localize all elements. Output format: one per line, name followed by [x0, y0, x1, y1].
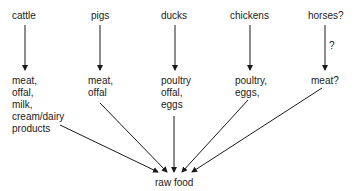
arrow-horses-rawfood — [192, 88, 322, 172]
arrow-pigs-rawfood — [100, 103, 167, 172]
products-chickens: poultry, eggs, — [235, 75, 267, 99]
source-cattle: cattle — [12, 10, 36, 22]
products-pigs: meat, offal — [88, 75, 113, 99]
products-ducks: poultry offal, eggs — [161, 75, 191, 111]
source-pigs: pigs — [91, 10, 109, 22]
source-chickens: chickens — [230, 10, 269, 22]
arrow-chickens-rawfood — [182, 100, 248, 172]
source-horses: horses? — [308, 10, 344, 22]
source-ducks: ducks — [161, 10, 187, 22]
arrow-cattle-rawfood — [60, 125, 158, 172]
products-horses: meat? — [311, 75, 339, 87]
horses-question-label: ? — [329, 40, 335, 52]
target-raw-food: raw food — [155, 177, 193, 189]
products-cattle: meat, offal, milk, cream/dairy products — [12, 75, 64, 135]
